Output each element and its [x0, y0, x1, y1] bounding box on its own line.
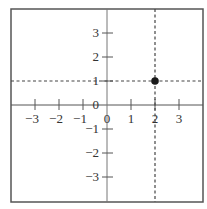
x-tick-label: 1	[128, 111, 135, 126]
x-tick-label: 0	[104, 111, 111, 126]
y-tick-label: 0	[93, 97, 100, 112]
x-axis-ticks: −3−2−10123	[25, 99, 182, 126]
y-tick-label: −1	[85, 121, 99, 136]
x-tick-label: −3	[25, 111, 39, 126]
y-tick-label: 3	[93, 25, 100, 40]
coordinate-plane: −3−2−10123 −3−2−10123	[0, 0, 207, 209]
y-tick-label: −2	[85, 145, 99, 160]
x-tick-label: 2	[152, 111, 159, 126]
data-point	[151, 77, 159, 85]
y-tick-label: −3	[85, 169, 99, 184]
data-points	[151, 77, 159, 85]
x-tick-label: −2	[49, 111, 63, 126]
x-tick-label: 3	[176, 111, 183, 126]
y-tick-label: 2	[93, 49, 100, 64]
